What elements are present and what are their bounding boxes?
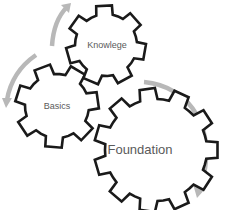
gear-label-knowlege: Knowlege (87, 40, 127, 50)
gear-label-basics: Basics (44, 101, 71, 111)
arrowhead-down-left-icon (2, 98, 12, 108)
diagram-canvas (0, 0, 225, 210)
gear-diagram: Knowlege Basics Foundation (0, 0, 225, 210)
gear-label-foundation: Foundation (107, 142, 172, 157)
arrow-up-icon (52, 7, 67, 46)
